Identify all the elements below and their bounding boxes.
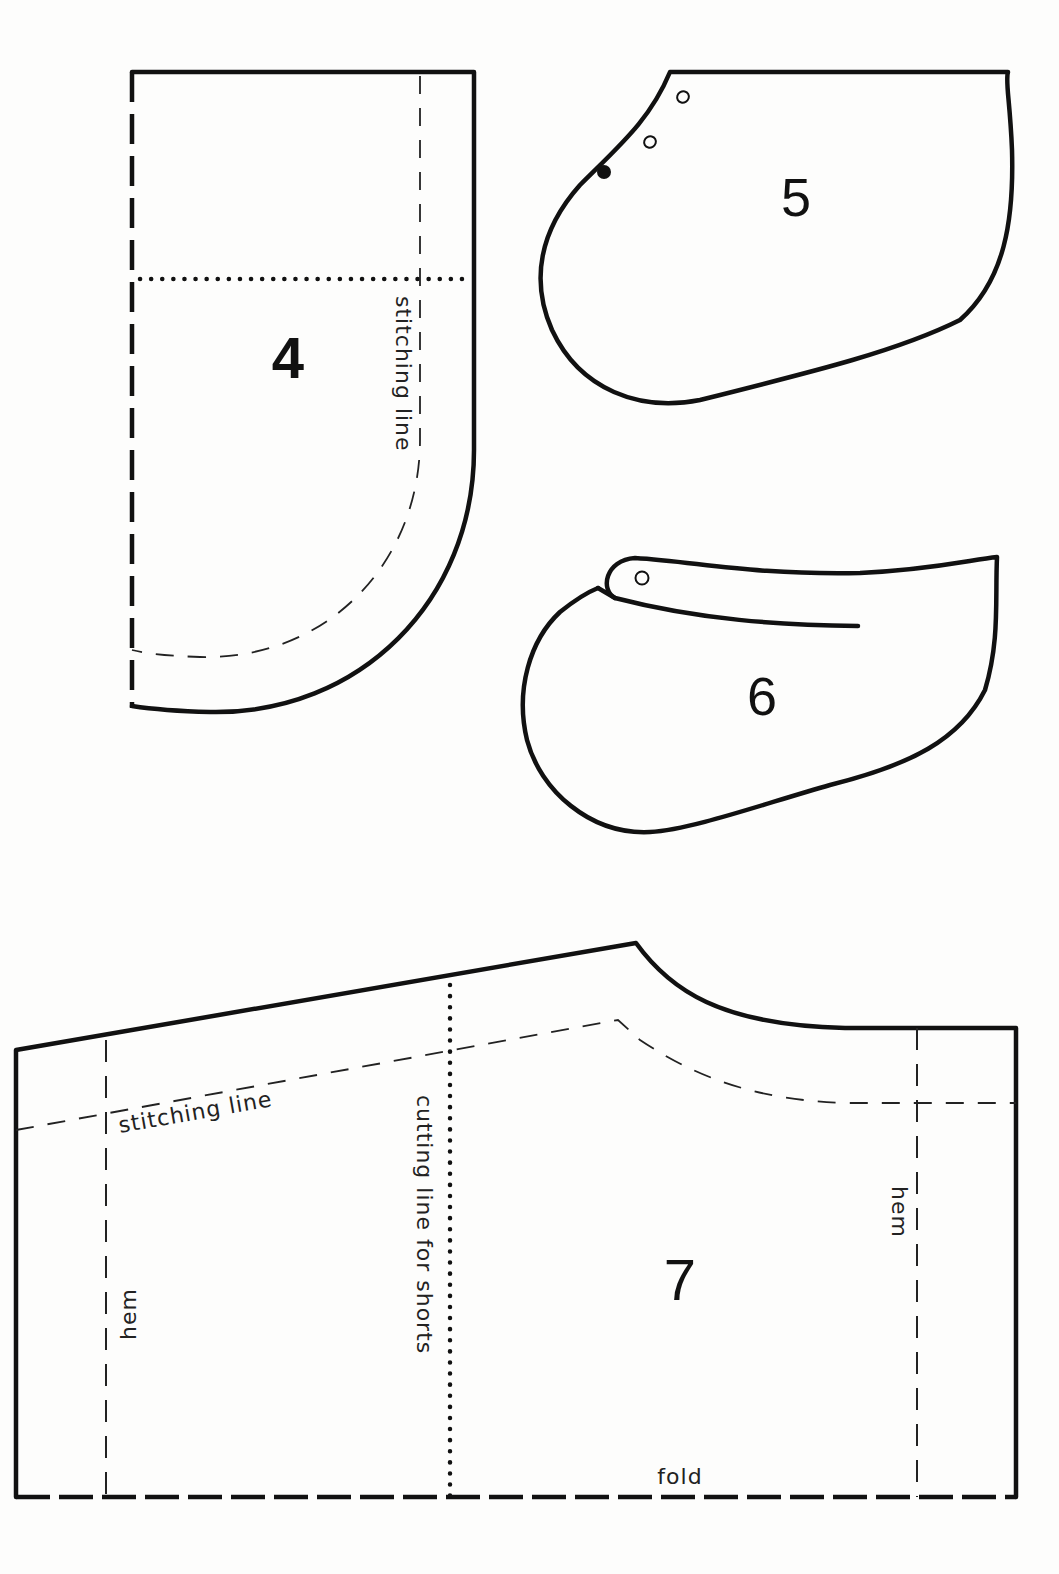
piece-4-outline — [132, 72, 474, 712]
piece-6-number: 6 — [747, 666, 777, 726]
piece-7-cutting-label: cutting line for shorts — [412, 1095, 437, 1354]
pattern-canvas: 4 stitching line 5 6 7 stitching — [0, 0, 1059, 1574]
piece-4-number: 4 — [272, 325, 304, 390]
piece-5-number: 5 — [781, 167, 811, 227]
pattern-piece-5: 5 — [541, 72, 1013, 403]
pattern-piece-7: 7 stitching line cutting line for shorts… — [16, 943, 1016, 1497]
piece-5-outline — [541, 72, 1013, 403]
piece-7-stitching-label: stitching line — [117, 1086, 275, 1138]
circle-mark-icon — [636, 572, 649, 585]
pattern-sheet: 4 stitching line 5 6 7 stitching — [0, 0, 1059, 1574]
dot-mark-icon — [597, 165, 611, 179]
piece-7-hem-right-label: hem — [887, 1186, 912, 1238]
piece-7-hem-left-label: hem — [116, 1288, 141, 1340]
piece-7-outline — [16, 943, 1016, 1497]
circle-mark-icon — [675, 89, 691, 105]
pattern-piece-4: 4 stitching line — [132, 72, 474, 712]
pattern-piece-6: 6 — [523, 557, 997, 832]
piece-7-fold-label: fold — [657, 1464, 702, 1489]
piece-4-stitching-label: stitching line — [391, 296, 416, 452]
circle-mark-icon — [642, 134, 658, 150]
piece-6-inner-flap-line — [598, 588, 858, 626]
piece-7-number: 7 — [664, 1247, 696, 1312]
